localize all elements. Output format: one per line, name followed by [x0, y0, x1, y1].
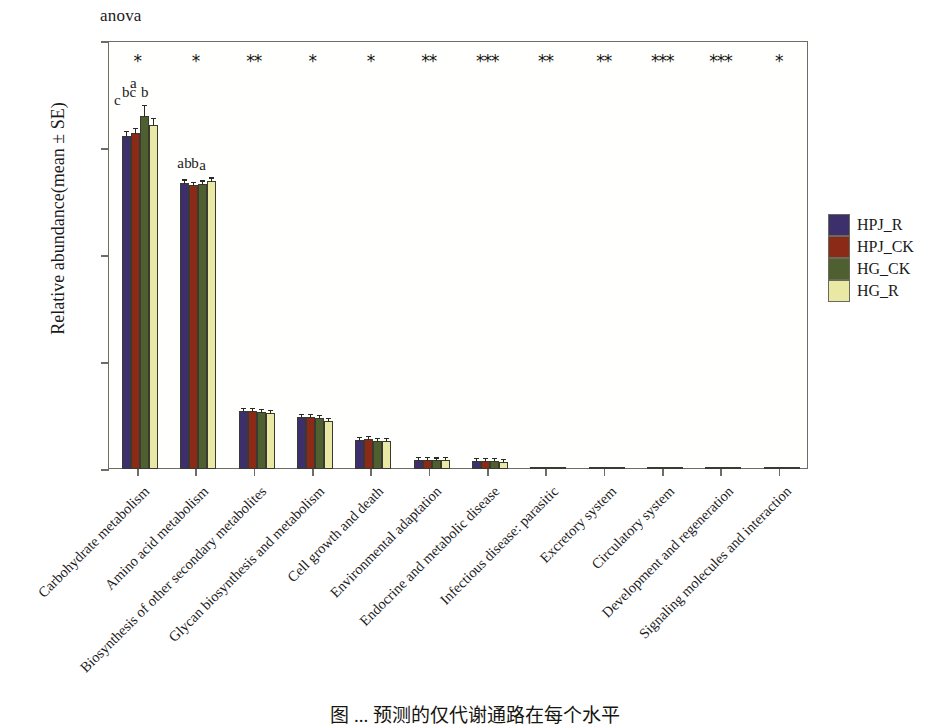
y-tick-mark	[101, 469, 109, 471]
bar[interactable]	[324, 421, 333, 469]
bar[interactable]	[423, 460, 432, 469]
error-bar-cap	[268, 410, 273, 411]
bar[interactable]	[207, 181, 216, 469]
bar[interactable]	[472, 461, 481, 469]
bar[interactable]	[373, 441, 382, 469]
bar[interactable]	[441, 460, 450, 469]
legend-item[interactable]: HPJ_R	[828, 214, 946, 236]
error-bar-cap	[492, 458, 497, 459]
bar[interactable]	[764, 467, 773, 469]
error-bar	[418, 458, 419, 461]
error-bar-cap	[151, 118, 156, 119]
anova-label: anova	[100, 6, 142, 26]
bar[interactable]	[189, 185, 198, 469]
x-tick-mark	[195, 469, 197, 476]
figure-caption: 图 ... 预测的仅代谢通路在每个水平	[0, 700, 950, 727]
error-bar-cap	[384, 438, 389, 439]
x-tick-mark	[429, 469, 431, 476]
bar[interactable]	[791, 467, 800, 469]
legend-item[interactable]: HG_CK	[828, 258, 946, 280]
bar[interactable]	[257, 412, 266, 469]
bar[interactable]	[782, 467, 791, 469]
error-bar	[126, 132, 127, 137]
bar[interactable]	[616, 467, 625, 469]
bar-group: ***	[633, 41, 691, 469]
legend-label: HG_R	[857, 282, 899, 300]
error-bar-cap	[299, 414, 304, 415]
bar[interactable]	[589, 467, 598, 469]
group-letter: b	[191, 156, 199, 171]
bar-group: *	[283, 41, 341, 469]
error-bar-cap	[209, 177, 214, 178]
legend-label: HPJ_R	[857, 216, 902, 234]
bar[interactable]	[530, 467, 539, 469]
error-bar-cap	[326, 418, 331, 419]
group-letter: b	[141, 85, 149, 100]
bar[interactable]	[140, 116, 149, 469]
error-bar-cap	[308, 414, 313, 415]
bar[interactable]	[382, 441, 391, 469]
error-bar	[445, 458, 446, 461]
x-tick-mark	[254, 469, 256, 476]
bar[interactable]	[297, 417, 306, 469]
bar[interactable]	[355, 440, 364, 469]
bar[interactable]	[315, 418, 324, 469]
bar[interactable]	[548, 467, 557, 469]
legend-label: HPJ_CK	[857, 238, 914, 256]
x-tick-mark	[720, 469, 722, 476]
bar[interactable]	[723, 467, 732, 469]
error-bar	[193, 183, 194, 186]
bar[interactable]	[490, 461, 499, 469]
error-bar-cap	[124, 131, 129, 132]
bar[interactable]	[732, 467, 741, 469]
y-axis-title: Relative abundance(mean ± SE)	[48, 9, 69, 429]
error-bar	[184, 180, 185, 183]
bar[interactable]	[149, 125, 158, 469]
error-bar	[211, 178, 212, 182]
plot-area: *cbcab*abba********************	[108, 41, 808, 469]
error-bar	[252, 409, 253, 412]
bar[interactable]	[607, 467, 616, 469]
error-bar-cap	[182, 179, 187, 180]
bar[interactable]	[122, 136, 131, 469]
error-bar	[436, 458, 437, 461]
error-bar-cap	[259, 409, 264, 410]
error-bar-cap	[434, 457, 439, 458]
error-bar	[310, 415, 311, 418]
bar[interactable]	[705, 467, 714, 469]
error-bar	[301, 415, 302, 418]
bar-group: ***	[458, 41, 516, 469]
bar[interactable]	[665, 467, 674, 469]
legend-item[interactable]: HPJ_CK	[828, 236, 946, 258]
error-bar-cap	[443, 457, 448, 458]
bar[interactable]	[499, 462, 508, 469]
bar[interactable]	[414, 460, 423, 469]
bar[interactable]	[364, 439, 373, 469]
bar[interactable]	[557, 467, 566, 469]
error-bar-cap	[250, 408, 255, 409]
group-letter: a	[199, 158, 206, 173]
bar[interactable]	[432, 460, 441, 469]
bar[interactable]	[647, 467, 656, 469]
error-bar	[319, 416, 320, 419]
bar[interactable]	[239, 411, 248, 469]
bar[interactable]	[198, 184, 207, 469]
error-bar	[243, 409, 244, 412]
legend-item[interactable]: HG_R	[828, 280, 946, 302]
bar-group: ***	[691, 41, 749, 469]
bar[interactable]	[180, 183, 189, 469]
bar-group: *abba	[166, 41, 224, 469]
bar[interactable]	[674, 467, 683, 469]
bar[interactable]	[481, 461, 490, 469]
group-letter: a	[130, 76, 137, 91]
bar[interactable]	[266, 413, 275, 469]
error-bar-cap	[483, 458, 488, 459]
bar[interactable]	[248, 411, 257, 469]
legend-label: HG_CK	[857, 260, 910, 278]
bar[interactable]	[306, 417, 315, 469]
bar-group: *	[341, 41, 399, 469]
bar[interactable]	[131, 133, 140, 469]
bar-group: *cbcab	[108, 41, 166, 469]
bar-group: *	[750, 41, 808, 469]
